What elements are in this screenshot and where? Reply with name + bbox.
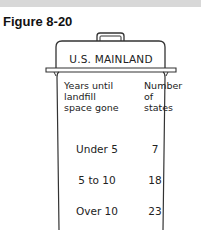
- row-value: 23: [137, 205, 173, 217]
- trash-can-icon: [0, 0, 201, 230]
- row-value: 18: [137, 174, 173, 186]
- header-line: Number: [144, 80, 182, 91]
- header-line: Years until: [64, 80, 119, 91]
- column-header-states: Number of states: [144, 80, 182, 113]
- row-category: Over 10: [57, 205, 137, 217]
- row-value: 7: [137, 143, 173, 155]
- header-line: of: [144, 91, 182, 102]
- header-line: states: [144, 102, 182, 113]
- row-category: 5 to 10: [57, 174, 137, 186]
- column-header-years: Years until landfill space gone: [64, 80, 119, 113]
- lid-label: U.S. MAINLAND: [57, 53, 165, 65]
- row-category: Under 5: [57, 143, 137, 155]
- header-line: space gone: [64, 102, 119, 113]
- header-line: landfill: [64, 91, 119, 102]
